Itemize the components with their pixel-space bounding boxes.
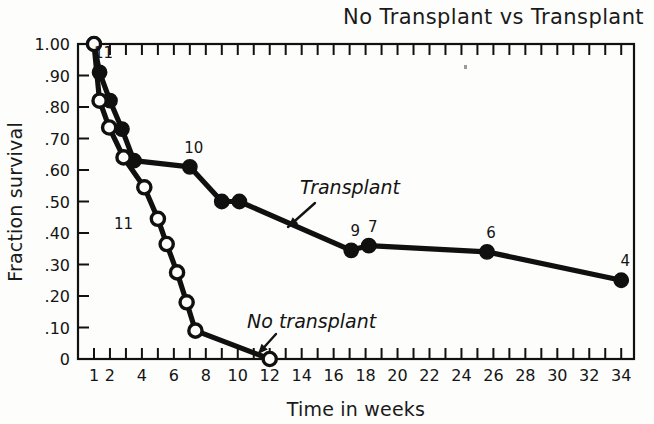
y-tick-label: .80 — [45, 98, 70, 117]
x-tick-label: 28 — [515, 366, 535, 385]
x-tick-label: 26 — [483, 366, 503, 385]
data-point-no-transplant — [189, 324, 202, 337]
data-point-transplant — [232, 194, 246, 208]
point-count-label: 11 — [114, 215, 133, 233]
y-tick-label: .30 — [45, 256, 70, 275]
x-tick-label: 8 — [201, 366, 211, 385]
x-tick-label: 14 — [291, 366, 311, 385]
annotation-no-transplant: No transplant — [247, 310, 378, 332]
x-tick-label: 18 — [355, 366, 375, 385]
data-point-transplant — [215, 194, 229, 208]
data-point-no-transplant — [93, 94, 106, 107]
y-tick-label: 0 — [60, 350, 70, 369]
y-tick-label: .70 — [45, 130, 70, 149]
x-tick-label: 16 — [323, 366, 343, 385]
point-count-label: 6 — [486, 224, 496, 242]
x-axis-tick-labels: 1246810121416182022242628303234 — [89, 366, 632, 385]
scan-speck — [464, 65, 467, 69]
x-tick-label: 30 — [547, 366, 567, 385]
chart-title: No Transplant vs Transplant — [343, 5, 644, 29]
x-tick-label: 1 — [89, 366, 99, 385]
x-tick-label: 12 — [260, 366, 280, 385]
data-point-no-transplant — [117, 151, 130, 164]
data-point-no-transplant — [180, 296, 193, 309]
y-tick-label: .40 — [45, 224, 70, 243]
x-tick-label: 24 — [451, 366, 471, 385]
point-count-label: 7 — [368, 218, 378, 236]
x-tick-label: 6 — [169, 366, 179, 385]
point-count-label: 11 — [94, 44, 113, 62]
data-point-no-transplant — [263, 352, 276, 365]
y-tick-label: .20 — [45, 287, 70, 306]
data-point-transplant — [480, 245, 494, 259]
x-tick-label: 34 — [611, 366, 631, 385]
annotation-transplant: Transplant — [300, 176, 402, 198]
x-tick-label: 2 — [105, 366, 115, 385]
x-tick-label: 22 — [419, 366, 439, 385]
x-tick-label: 20 — [387, 366, 407, 385]
x-tick-label: 4 — [137, 366, 147, 385]
y-tick-label: 1.00 — [34, 35, 70, 54]
survival-curve-figure: No Transplant vs Transplant 124681012141… — [0, 0, 654, 424]
x-axis-title: Time in weeks — [286, 398, 425, 420]
data-point-no-transplant — [170, 266, 183, 279]
data-point-no-transplant — [103, 121, 116, 134]
data-point-transplant — [344, 243, 358, 257]
y-tick-label: .10 — [45, 319, 70, 338]
point-count-label: 9 — [350, 222, 360, 240]
y-axis-title: Fraction survival — [4, 122, 26, 282]
data-point-transplant — [362, 238, 376, 252]
data-point-no-transplant — [160, 237, 173, 250]
data-point-no-transplant — [151, 212, 164, 225]
point-count-label: 10 — [184, 139, 203, 157]
y-tick-label: .50 — [45, 193, 70, 212]
x-tick-label: 10 — [228, 366, 248, 385]
point-count-label: 4 — [620, 252, 630, 270]
y-tick-label: .60 — [45, 161, 70, 180]
data-point-no-transplant — [138, 181, 151, 194]
data-point-transplant — [614, 273, 628, 287]
data-point-transplant — [183, 160, 197, 174]
x-tick-label: 32 — [579, 366, 599, 385]
y-tick-label: .90 — [45, 67, 70, 86]
